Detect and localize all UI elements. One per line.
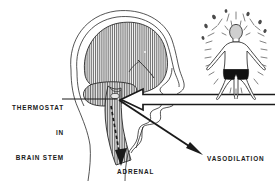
black-shorts (223, 70, 248, 80)
label-effects-line2: SWEATING (207, 180, 265, 181)
sweating-person-figure (201, 9, 267, 100)
effector-output-arrow (119, 100, 203, 155)
label-thermostat-line1: THERMOSTAT (4, 104, 64, 112)
label-effects-line1: VASODILATION (207, 155, 265, 163)
label-adrenal: ADRENAL (117, 168, 154, 176)
label-thermostat-line3: BRAIN STEM (4, 154, 64, 162)
label-thermostat-line2: IN (4, 129, 64, 137)
thermoregulation-diagram: THERMOSTAT IN BRAIN STEM ADRENAL VASODIL… (0, 0, 280, 181)
label-thermostat-in-brain-stem: THERMOSTAT IN BRAIN STEM (4, 88, 64, 178)
person-body (207, 24, 266, 99)
label-effects: VASODILATION SWEATING PANTING (207, 139, 265, 181)
